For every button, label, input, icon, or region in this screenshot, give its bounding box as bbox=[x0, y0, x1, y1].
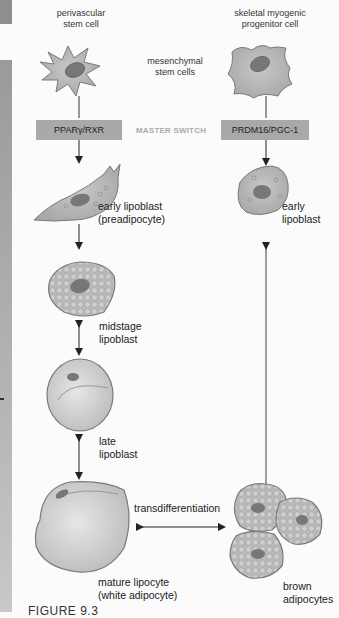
brown-adipocytes-label: brown adipocytes bbox=[283, 580, 333, 606]
white-adipocyte-label: mature lipocyte (white adipocyte) bbox=[98, 576, 177, 602]
transdifferentiation-label: transdifferentiation bbox=[134, 502, 220, 515]
midstage-lipoblast-label: midstage lipoblast bbox=[99, 320, 142, 346]
perivascular-stem-cell-icon bbox=[40, 46, 100, 96]
myogenic-progenitor-label: skeletal myogenic progenitor cell bbox=[220, 8, 320, 30]
early-lipoblast-right-icon bbox=[238, 166, 288, 215]
master-switch-label: MASTER SWITCH bbox=[136, 126, 206, 135]
early-lipoblast-left-label: early lipoblast (preadipocyte) bbox=[98, 200, 165, 226]
myogenic-progenitor-cell-icon bbox=[228, 45, 292, 98]
early-lipoblast-right-label: early lipoblast bbox=[282, 200, 321, 226]
brown-adipocytes-icon bbox=[230, 484, 322, 579]
white-adipocyte-icon bbox=[36, 482, 130, 572]
late-lipoblast-icon bbox=[47, 359, 113, 431]
pparg-rxr-switch-box: PPARγ/RXR bbox=[36, 120, 122, 140]
mesenchymal-stem-cells-label: mesenchymal stem cells bbox=[140, 56, 210, 78]
perivascular-stem-cell-label: perivascular stem cell bbox=[50, 8, 112, 30]
figure-caption: FIGURE 9.3 bbox=[28, 604, 98, 618]
late-lipoblast-label: late lipoblast bbox=[99, 435, 138, 461]
prdm16-pgc1-switch-box: PRDM16/PGC-1 bbox=[221, 120, 309, 140]
midstage-lipoblast-icon bbox=[49, 262, 115, 316]
